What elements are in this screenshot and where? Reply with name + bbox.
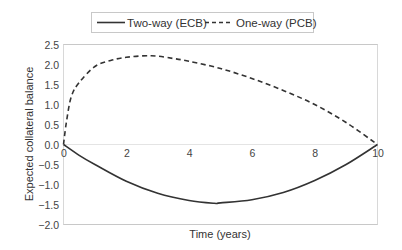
legend: Two-way (ECB) One-way (PCB) bbox=[92, 13, 317, 33]
chart: Two-way (ECB) One-way (PCB) 2.5 2.0 1.5 … bbox=[0, 0, 402, 250]
x-tick: 10 bbox=[372, 147, 384, 159]
y-tick: 1.0 bbox=[44, 99, 59, 111]
plot-frame bbox=[63, 45, 378, 225]
y-tick: −1.5 bbox=[38, 199, 59, 211]
x-axis-label: Time (years) bbox=[189, 228, 250, 240]
y-tick: 2.5 bbox=[44, 39, 59, 51]
series-two-way-ecb bbox=[64, 145, 378, 204]
y-tick: −2.0 bbox=[38, 219, 59, 231]
x-tick: 6 bbox=[249, 147, 255, 159]
y-tick: 1.5 bbox=[44, 79, 59, 91]
x-tick: 2 bbox=[124, 147, 130, 159]
x-tick: 4 bbox=[187, 147, 193, 159]
y-tick: −1.0 bbox=[38, 179, 59, 191]
x-axis: 0 2 4 6 8 10 bbox=[61, 147, 384, 159]
x-tick: 8 bbox=[312, 147, 318, 159]
y-axis: 2.5 2.0 1.5 1.0 0.5 0.0 −0.5 −1.0 −1.5 −… bbox=[38, 39, 59, 231]
x-tick: 0 bbox=[61, 147, 67, 159]
y-axis-label: Expected collateral balance bbox=[23, 67, 35, 202]
y-tick: 0.0 bbox=[44, 139, 59, 151]
y-tick: 2.0 bbox=[44, 59, 59, 71]
legend-label-one-way: One-way (PCB) bbox=[236, 17, 317, 29]
series-one-way-pcb bbox=[64, 56, 378, 145]
y-tick: −0.5 bbox=[38, 159, 59, 171]
y-tick: 0.5 bbox=[44, 119, 59, 131]
legend-label-two-way: Two-way (ECB) bbox=[127, 17, 207, 29]
